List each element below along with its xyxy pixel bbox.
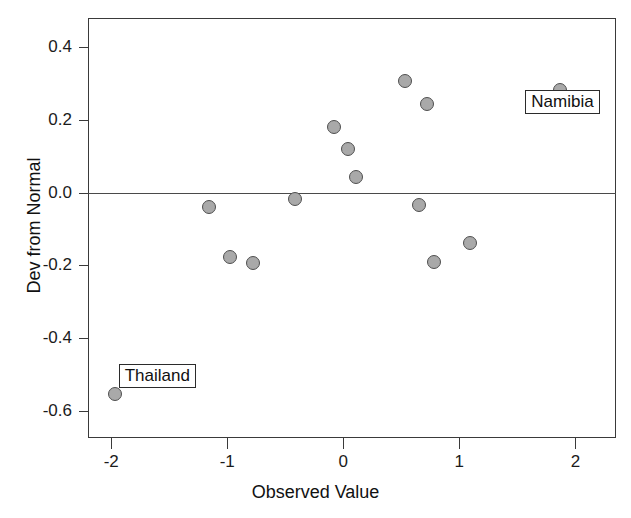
point-annotation-label: Namibia xyxy=(525,90,599,115)
data-point-marker[interactable] xyxy=(349,170,363,184)
y-axis-tick xyxy=(79,47,88,48)
x-axis-tick-label: 2 xyxy=(571,452,580,472)
data-point-marker[interactable] xyxy=(108,387,122,401)
y-axis-tick xyxy=(79,265,88,266)
y-axis-tick-label: 0.4 xyxy=(0,37,72,57)
y-axis-tick xyxy=(79,120,88,121)
y-axis-tick xyxy=(79,411,88,412)
data-point-marker[interactable] xyxy=(202,200,216,214)
x-axis-tick-label: 0 xyxy=(339,452,348,472)
data-point-marker[interactable] xyxy=(223,250,237,264)
scatter-plot-figure: 0.40.20.0-0.2-0.4-0.6 -2-1012 ThailandNa… xyxy=(0,0,631,518)
data-point-marker[interactable] xyxy=(398,74,412,88)
data-point-marker[interactable] xyxy=(420,97,434,111)
x-axis-tick xyxy=(343,438,344,449)
data-point-marker[interactable] xyxy=(463,236,477,250)
y-axis-title: Dev from Normal xyxy=(24,116,45,336)
data-point-marker[interactable] xyxy=(412,198,426,212)
y-axis-tick xyxy=(79,338,88,339)
x-axis-title: Observed Value xyxy=(0,482,631,503)
x-axis-tick xyxy=(111,438,112,449)
point-annotation-label: Thailand xyxy=(119,364,196,389)
y-axis-tick-label: -0.6 xyxy=(0,401,72,421)
zero-reference-line xyxy=(88,193,616,194)
x-axis-tick xyxy=(459,438,460,449)
y-axis-tick xyxy=(79,193,88,194)
x-axis-tick xyxy=(575,438,576,449)
x-axis-tick-label: -2 xyxy=(104,452,119,472)
x-axis-tick-label: -1 xyxy=(220,452,235,472)
x-axis-tick xyxy=(227,438,228,449)
data-point-marker[interactable] xyxy=(327,120,341,134)
x-axis-tick-label: 1 xyxy=(455,452,464,472)
data-point-marker[interactable] xyxy=(288,192,302,206)
data-point-marker[interactable] xyxy=(246,256,260,270)
